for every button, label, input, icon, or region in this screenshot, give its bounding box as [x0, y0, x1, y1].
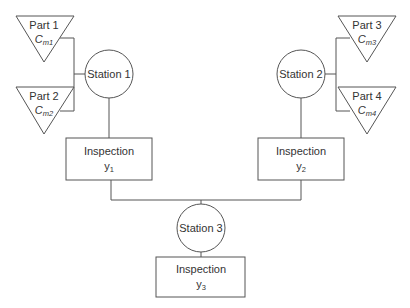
station-3: Station 3	[177, 204, 225, 252]
connector-inspections-merge	[111, 180, 301, 200]
station-label: Station 2	[279, 68, 322, 80]
part-label: Part 4	[352, 90, 381, 102]
inspection-label: Inspection	[276, 145, 326, 157]
inspection-1: Inspection y1	[66, 138, 152, 180]
assembly-diagram: Part 1 Cm1 Part 2 Cm2 Part 3 Cm3 Part 4 …	[0, 0, 410, 308]
station-2: Station 2	[277, 50, 325, 98]
inspection-2: Inspection y2	[258, 138, 344, 180]
part-label: Part 1	[29, 19, 58, 31]
inspection-3: Inspection y3	[156, 257, 245, 297]
part-label: Part 2	[29, 90, 58, 102]
part-1: Part 1 Cm1	[16, 16, 74, 62]
inspection-label: Inspection	[84, 145, 134, 157]
station-label: Station 3	[179, 222, 222, 234]
station-1: Station 1	[85, 50, 133, 98]
inspection-label: Inspection	[176, 263, 226, 275]
part-3: Part 3 Cm3	[338, 16, 396, 62]
station-label: Station 1	[87, 68, 130, 80]
part-label: Part 3	[352, 19, 381, 31]
